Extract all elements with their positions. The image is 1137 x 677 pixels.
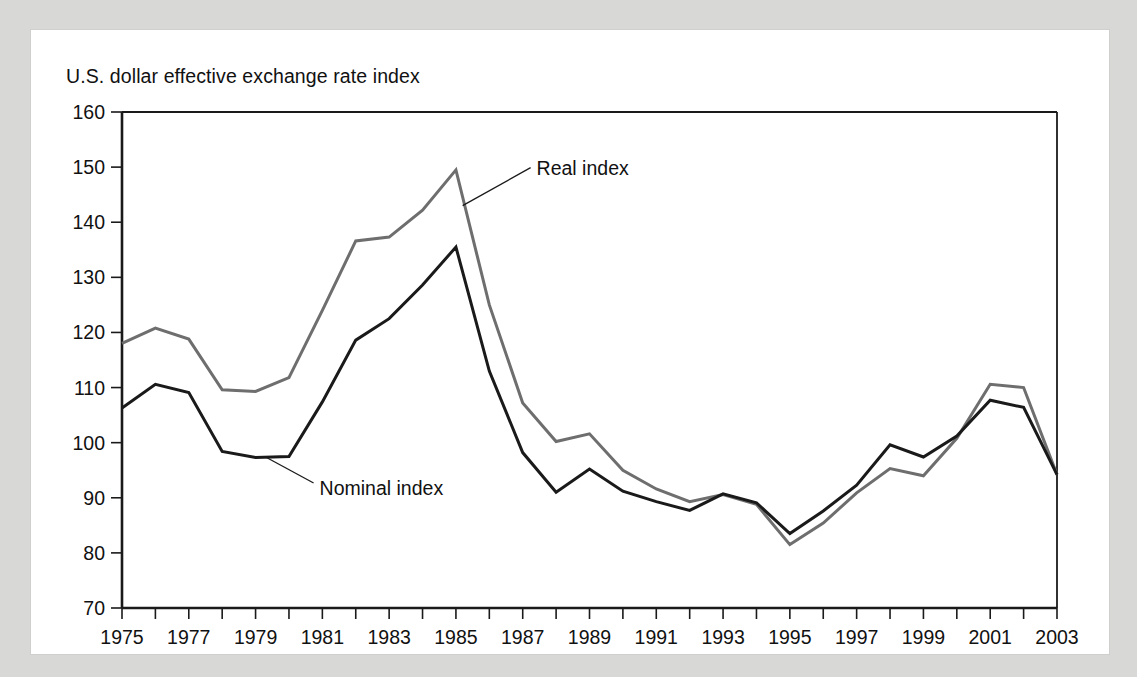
x-tick-label: 2001 bbox=[969, 626, 1012, 648]
figure-panel: U.S. dollar effective exchange rate inde… bbox=[30, 29, 1110, 655]
y-tick-label: 80 bbox=[83, 542, 105, 564]
series-line-nominal-index bbox=[122, 247, 1057, 534]
y-axis-ticks bbox=[111, 112, 122, 608]
y-tick-label: 70 bbox=[83, 597, 105, 619]
x-tick-label: 1975 bbox=[100, 626, 144, 648]
y-tick-label: 110 bbox=[74, 377, 105, 399]
line-chart: Real indexNominal index 7080901001101201… bbox=[30, 29, 1110, 655]
annotations-group: Real indexNominal index bbox=[266, 157, 629, 499]
y-tick-label: 130 bbox=[72, 266, 105, 288]
x-tick-label: 1981 bbox=[301, 626, 344, 648]
annotation-leader-line bbox=[463, 168, 531, 206]
axis-lines bbox=[122, 112, 1057, 608]
x-axis-ticks bbox=[122, 608, 1057, 619]
x-tick-label: 1995 bbox=[768, 626, 812, 648]
y-tick-label: 140 bbox=[72, 211, 105, 233]
y-tick-label: 160 bbox=[72, 101, 105, 123]
y-tick-label: 150 bbox=[72, 156, 105, 178]
data-series-group bbox=[122, 170, 1057, 545]
x-tick-label: 1977 bbox=[167, 626, 210, 648]
y-tick-label: 100 bbox=[72, 432, 105, 454]
x-tick-label: 1985 bbox=[434, 626, 478, 648]
page-background: U.S. dollar effective exchange rate inde… bbox=[0, 0, 1137, 677]
annotation-label-nominal-index: Nominal index bbox=[320, 477, 444, 499]
series-line-real-index bbox=[122, 170, 1057, 545]
y-axis-labels: 708090100110120130140150160 bbox=[72, 101, 105, 619]
x-tick-label: 1989 bbox=[568, 626, 611, 648]
x-tick-label: 1999 bbox=[902, 626, 945, 648]
x-tick-label: 1997 bbox=[835, 626, 878, 648]
x-tick-label: 1993 bbox=[701, 626, 744, 648]
y-tick-label: 90 bbox=[83, 487, 105, 509]
x-tick-label: 2003 bbox=[1035, 626, 1078, 648]
x-axis-labels: 1975197719791981198319851987198919911993… bbox=[100, 626, 1078, 648]
x-tick-label: 1983 bbox=[367, 626, 410, 648]
annotation-label-real-index: Real index bbox=[537, 157, 629, 179]
x-tick-label: 1991 bbox=[635, 626, 678, 648]
annotation-leader-line bbox=[266, 457, 314, 483]
x-tick-label: 1979 bbox=[234, 626, 277, 648]
x-tick-label: 1987 bbox=[501, 626, 544, 648]
y-tick-label: 120 bbox=[72, 321, 105, 343]
